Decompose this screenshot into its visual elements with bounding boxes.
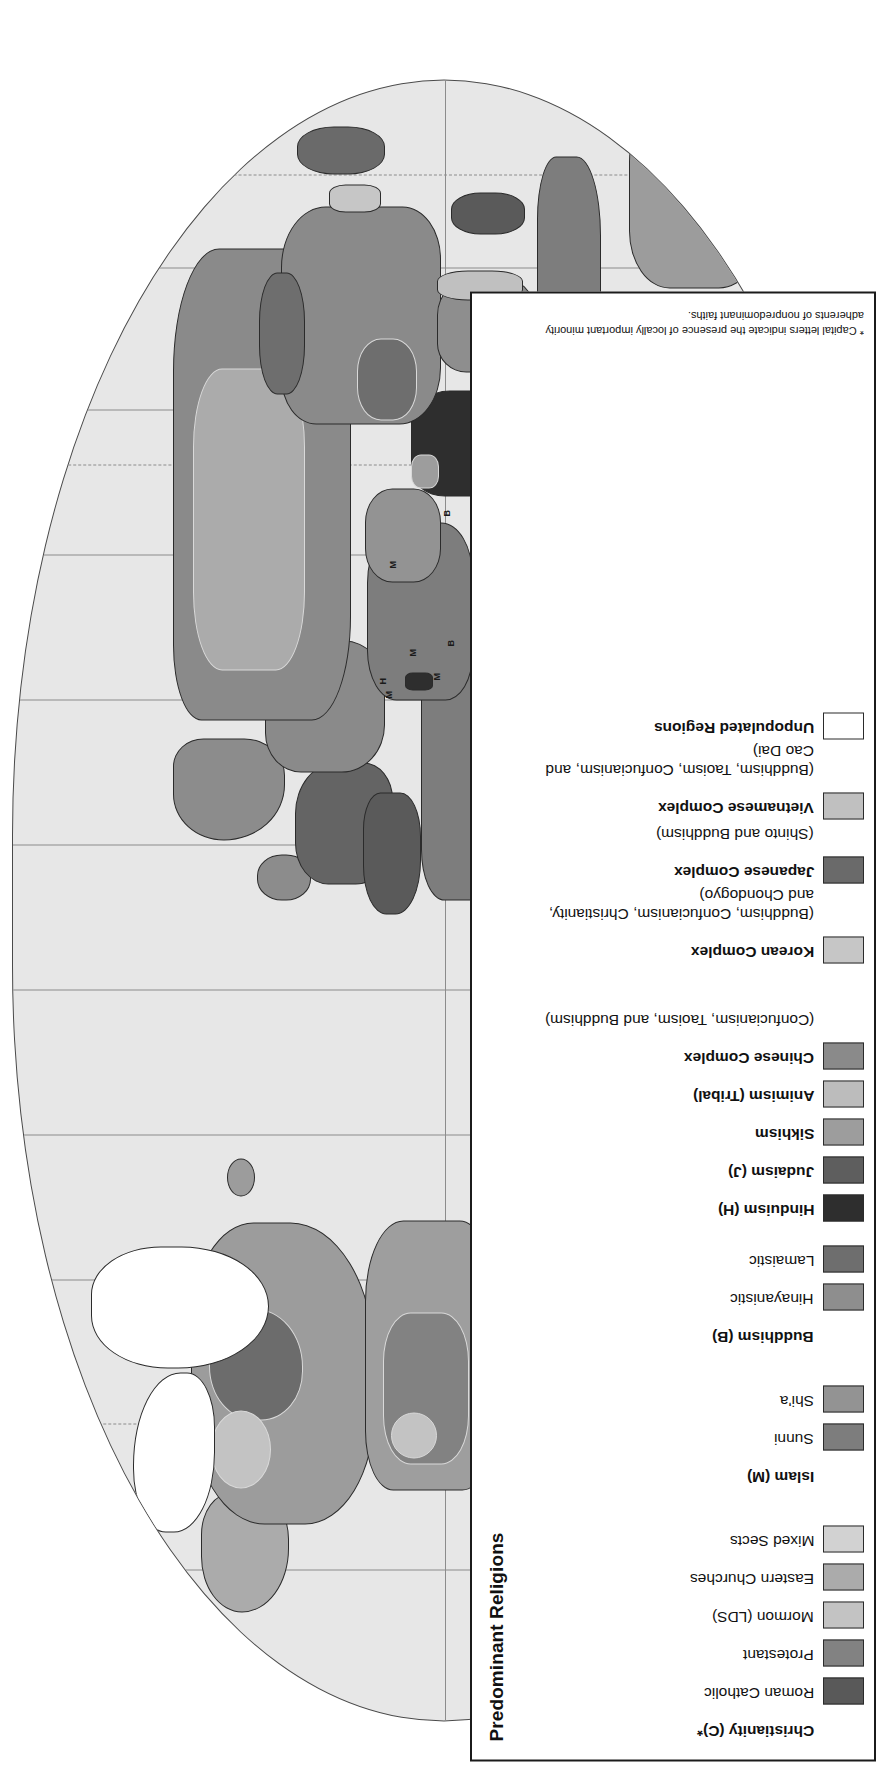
legend-swatch [823,1601,864,1628]
legend-item-sublabel: (Confucianism, Taoism, and Buddhism) [545,1010,814,1028]
legend-group-buddhism: Buddhism (B) Hinayanistic Lamaistic [536,1235,866,1349]
legend-header-christianity: Christianity (C)* [536,1705,866,1743]
map-letter-label-b2: B [443,510,452,517]
legend-item-vietnamese-complex-detail: (Buddhism, Taoism, Confucianism, and Cao… [536,740,866,782]
landmass-iran [365,488,441,582]
landmass-israel [405,672,433,690]
legend-swatch [823,1639,864,1666]
legend-swatch [823,1194,864,1221]
legend-swatch [823,936,864,963]
legend-item-mixed-sects[interactable]: Mixed Sects [536,1515,866,1553]
legend-item-roman-catholic[interactable]: Roman Catholic [536,1667,866,1705]
map-letter-label-h1: H [379,678,388,685]
legend-swatch [823,1525,864,1552]
landmass-greenland [91,1246,269,1368]
map-letter-label-m2: M [409,649,418,657]
legend-swatch [823,1156,864,1183]
legend-swatch [823,1563,864,1590]
legend-item-label: Japanese Complex [674,862,814,880]
legend-item-label: Unpopulated Regions [654,718,814,736]
legend-swatch [823,1080,864,1107]
legend-swatch [823,792,864,819]
legend-swatch [823,1118,864,1145]
legend-item-sikhism[interactable]: Sikhism [536,1108,866,1146]
legend-swatch [823,1677,864,1704]
map-legend: Predominant Religions Christianity (C)* … [470,291,876,1761]
legend-swatch [823,1423,864,1450]
legend-item-sublabel: (Buddhism, Confucianism, Christianity, a… [536,885,814,922]
rotated-map-canvas: M M M M H B B H Scale: 1 to 180,000,000 [0,0,888,1773]
legend-item-label: Vietnamese Complex [658,798,814,816]
subregion-siberia-eastern-churches [193,368,305,670]
legend-swatch [823,1283,864,1310]
legend-group-single-entries: Hinduism (H) Judaism (J) Sikhism Animism… [536,990,866,1222]
legend-item-label: Animism (Tribal) [693,1086,814,1104]
legend-item-label: Sikhism [755,1124,814,1142]
legend-header-buddhism: Buddhism (B) [536,1311,866,1349]
landmass-australia [629,96,765,288]
legend-item-chinese-complex-detail: (Confucianism, Taoism, and Buddhism) [536,990,866,1032]
legend-item-shia[interactable]: Shi'a [536,1375,866,1413]
legend-swatch [823,1245,864,1272]
map-letter-label-m1: M [385,691,394,699]
landmass-philippines [451,192,525,234]
legend-item-label: Sunni [774,1429,814,1447]
subregion-canada-mixed [211,1410,271,1488]
map-letter-label-m3: M [433,673,442,681]
landmass-mongolia [259,272,305,394]
legend-item-label: Mormon (LDS) [712,1607,814,1625]
subregion-india-sikhism [411,454,439,488]
landmass-iceland [227,1158,255,1196]
legend-item-unpopulated-regions[interactable]: Unpopulated Regions [536,702,866,740]
legend-group-complexes: Korean Complex (Buddhism, Confucianism, … [536,702,866,964]
legend-swatch [823,1385,864,1412]
legend-item-sunni[interactable]: Sunni [536,1413,866,1451]
legend-item-label: Chinese Complex [684,1048,814,1066]
legend-item-japanese-complex[interactable]: Japanese Complex [536,846,866,884]
legend-item-label: Roman Catholic [704,1683,814,1701]
legend-item-label: Hinduism (H) [718,1200,814,1218]
legend-item-korean-complex-detail: (Buddhism, Confucianism, Christianity, a… [536,884,866,926]
legend-item-label: Korean Complex [691,942,814,960]
legend-item-label: Mixed Sects [730,1531,814,1549]
subregion-us-mormon [391,1412,437,1458]
legend-swatch [823,1042,864,1069]
legend-item-mormon-lds[interactable]: Mormon (LDS) [536,1591,866,1629]
legend-item-judaism[interactable]: Judaism (J) [536,1146,866,1184]
legend-item-hinayanistic[interactable]: Hinayanistic [536,1273,866,1311]
legend-item-label: Shi'a [780,1391,814,1409]
legend-item-chinese-complex[interactable]: Chinese Complex [536,1032,866,1070]
legend-entries: Christianity (C)* Roman Catholic Protest… [536,307,866,1743]
legend-item-label: Lamaistic [749,1251,814,1269]
legend-item-sublabel: (Shinto and Buddhism) [656,824,814,842]
map-letter-label-b1: B [447,640,456,647]
legend-item-protestant[interactable]: Protestant [536,1629,866,1667]
map-page: M M M M H B B H Scale: 1 to 180,000,000 [0,0,888,1773]
map-letter-label-m4: M [389,561,398,569]
legend-item-label: Eastern Churches [690,1569,814,1587]
landmass-japan [297,126,385,174]
legend-footnote: * Capital letters indicate the presence … [534,307,864,337]
legend-item-label: Hinayanistic [730,1289,814,1307]
subregion-tibet-lamaistic [357,338,417,420]
legend-item-vietnamese-complex[interactable]: Vietnamese Complex [536,782,866,820]
legend-item-eastern-churches[interactable]: Eastern Churches [536,1553,866,1591]
legend-item-lamaistic[interactable]: Lamaistic [536,1235,866,1273]
legend-header-islam: Islam (M) [536,1451,866,1489]
legend-item-japanese-complex-detail: (Shinto and Buddhism) [536,820,866,846]
legend-title: Predominant Religions [486,1532,508,1741]
legend-group-islam: Islam (M) Sunni Shi'a [536,1375,866,1489]
legend-header-label: Buddhism (B) [712,1327,814,1345]
legend-header-label: Christianity (C)* [697,1721,814,1739]
legend-swatch [823,712,864,739]
legend-group-christianity: Christianity (C)* Roman Catholic Protest… [536,1515,866,1743]
legend-item-korean-complex[interactable]: Korean Complex [536,926,866,964]
legend-item-sublabel: (Buddhism, Taoism, Confucianism, and Cao… [536,741,814,778]
legend-item-hinduism[interactable]: Hinduism (H) [536,1184,866,1222]
landmass-korea [329,184,381,212]
landmass-iberia-italy [363,792,421,914]
legend-swatch [823,856,864,883]
legend-item-label: Judaism (J) [728,1162,814,1180]
legend-item-label: Protestant [743,1645,814,1663]
legend-item-animism[interactable]: Animism (Tribal) [536,1070,866,1108]
